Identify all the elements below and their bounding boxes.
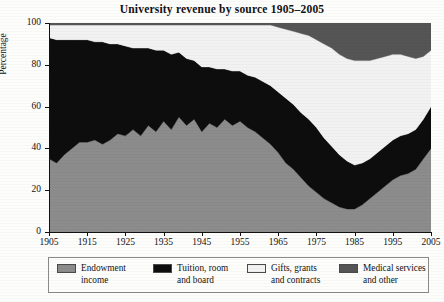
x-tick-label: 1985 — [340, 238, 370, 248]
x-tick-mark — [49, 232, 50, 236]
x-tick-mark — [240, 232, 241, 236]
x-tick-mark — [316, 232, 317, 236]
x-tick-label: 1995 — [378, 238, 408, 248]
legend-swatch-icon — [247, 264, 266, 273]
y-tick-label: 80 — [15, 60, 41, 70]
x-tick-mark — [431, 232, 432, 236]
y-tick-mark — [45, 107, 49, 108]
figure-container: University revenue by source 1905–2005 P… — [0, 0, 444, 302]
x-tick-label: 1915 — [72, 238, 102, 248]
legend-swatch-icon — [339, 264, 358, 273]
legend-item: Endowment income — [57, 263, 126, 286]
chart-title: University revenue by source 1905–2005 — [0, 3, 444, 15]
x-tick-label: 1935 — [149, 238, 179, 248]
stacked-area-chart — [49, 23, 431, 232]
x-tick-mark — [355, 232, 356, 236]
y-tick-label: 20 — [15, 185, 41, 195]
legend-swatch-icon — [57, 264, 76, 273]
y-tick-mark — [45, 148, 49, 149]
y-tick-label: 100 — [15, 18, 41, 28]
legend-item: Tuition, room and board — [153, 263, 228, 286]
plot-area — [49, 23, 431, 232]
y-tick-label: 40 — [15, 143, 41, 153]
legend-swatch-icon — [153, 264, 172, 273]
y-tick-mark — [45, 65, 49, 66]
legend-item: Gifts, grants and contracts — [247, 263, 320, 286]
legend-label: Medical services and other — [363, 263, 426, 286]
x-tick-label: 1955 — [225, 238, 255, 248]
x-tick-mark — [125, 232, 126, 236]
x-tick-mark — [87, 232, 88, 236]
y-tick-mark — [45, 190, 49, 191]
y-tick-mark — [45, 23, 49, 24]
x-tick-mark — [393, 232, 394, 236]
x-tick-label: 1945 — [187, 238, 217, 248]
chart-legend: Endowment incomeTuition, room and boardG… — [48, 257, 429, 293]
y-tick-label: 60 — [15, 102, 41, 112]
legend-label: Endowment income — [81, 263, 126, 286]
x-tick-label: 2005 — [416, 238, 444, 248]
y-tick-label: 0 — [15, 227, 41, 237]
x-tick-mark — [164, 232, 165, 236]
x-tick-mark — [202, 232, 203, 236]
legend-label: Gifts, grants and contracts — [271, 263, 320, 286]
y-axis-title: Percentage — [0, 14, 8, 94]
x-tick-label: 1925 — [110, 238, 140, 248]
x-tick-mark — [278, 232, 279, 236]
x-tick-label: 1905 — [34, 238, 64, 248]
x-tick-label: 1965 — [263, 238, 293, 248]
legend-item: Medical services and other — [339, 263, 426, 286]
legend-label: Tuition, room and board — [177, 263, 228, 286]
x-tick-label: 1975 — [301, 238, 331, 248]
